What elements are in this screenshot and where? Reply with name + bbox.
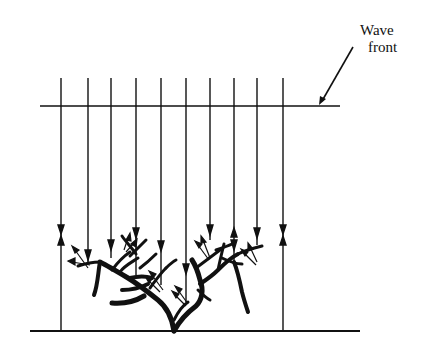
wavefront-diagram [0,0,434,345]
incident-rays [58,78,286,331]
wavefront-pointer [319,47,353,105]
